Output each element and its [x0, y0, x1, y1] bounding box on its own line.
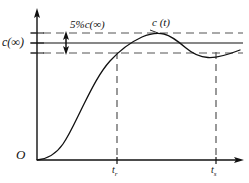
tolerance-band-label: 5%c(∞) [70, 19, 105, 30]
settling-time-label: ts [211, 165, 217, 178]
steady-state-label: c(∞) [2, 36, 24, 48]
settling-time-subscript: s [214, 170, 217, 178]
rise-time-label: tr [112, 165, 118, 178]
step-response-figure: O c(∞) 5%c(∞) c (t) tr ts [0, 0, 249, 183]
step-response-curve [37, 33, 240, 160]
rise-time-subscript: r [115, 170, 118, 178]
curve-label: c (t) [152, 17, 170, 28]
origin-label: O [16, 148, 25, 161]
figure-canvas [0, 0, 249, 183]
